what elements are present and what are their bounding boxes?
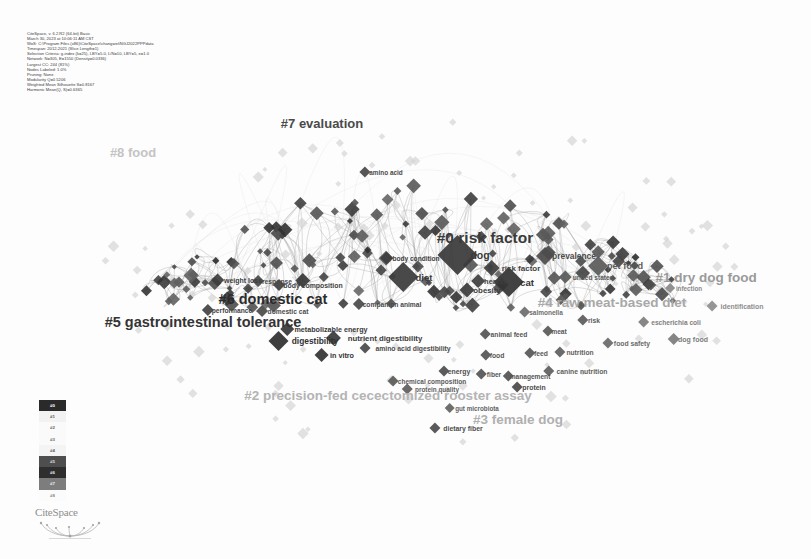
graph-node[interactable] bbox=[308, 143, 318, 153]
graph-node[interactable] bbox=[650, 259, 663, 272]
graph-node[interactable] bbox=[577, 315, 588, 326]
graph-node[interactable] bbox=[337, 260, 348, 271]
graph-node[interactable] bbox=[554, 347, 565, 358]
graph-node[interactable] bbox=[497, 211, 510, 224]
graph-node[interactable] bbox=[511, 434, 519, 442]
graph-node[interactable] bbox=[545, 391, 557, 403]
graph-node[interactable] bbox=[193, 346, 205, 358]
graph-node[interactable] bbox=[335, 252, 345, 262]
graph-node[interactable] bbox=[665, 283, 675, 293]
graph-node[interactable] bbox=[300, 346, 307, 353]
graph-node[interactable] bbox=[641, 222, 650, 231]
graph-node[interactable] bbox=[253, 171, 264, 182]
graph-node[interactable] bbox=[638, 317, 649, 328]
graph-node[interactable] bbox=[176, 375, 184, 383]
graph-node[interactable] bbox=[386, 299, 396, 309]
graph-node[interactable] bbox=[628, 203, 638, 213]
graph-node[interactable] bbox=[540, 286, 552, 298]
graph-node[interactable] bbox=[402, 384, 413, 395]
graph-node[interactable] bbox=[702, 220, 713, 231]
graph-node[interactable] bbox=[375, 339, 381, 345]
graph-node[interactable] bbox=[315, 348, 329, 362]
graph-node[interactable] bbox=[476, 369, 487, 380]
graph-node[interactable] bbox=[543, 366, 554, 377]
graph-node[interactable] bbox=[480, 350, 491, 361]
graph-node[interactable] bbox=[336, 139, 344, 147]
graph-node[interactable] bbox=[460, 283, 475, 298]
legend-item-c7[interactable]: #7 bbox=[39, 478, 66, 489]
graph-node[interactable] bbox=[524, 348, 535, 359]
graph-node[interactable] bbox=[438, 366, 449, 377]
graph-node[interactable] bbox=[270, 256, 283, 269]
graph-node[interactable] bbox=[666, 177, 676, 187]
graph-node[interactable] bbox=[451, 357, 457, 363]
graph-node[interactable] bbox=[562, 339, 570, 347]
legend-item-c1[interactable]: #1 bbox=[39, 411, 66, 422]
graph-node[interactable] bbox=[133, 266, 142, 275]
graph-node[interactable] bbox=[162, 356, 172, 366]
graph-node[interactable] bbox=[380, 252, 393, 265]
graph-node[interactable] bbox=[455, 340, 464, 349]
graph-node[interactable] bbox=[460, 300, 467, 307]
graph-node[interactable] bbox=[567, 136, 577, 146]
graph-node[interactable] bbox=[581, 138, 587, 144]
graph-node[interactable] bbox=[370, 208, 383, 221]
graph-node[interactable] bbox=[132, 291, 139, 298]
graph-node[interactable] bbox=[272, 390, 279, 397]
graph-node[interactable] bbox=[162, 320, 173, 331]
graph-node[interactable] bbox=[712, 261, 722, 271]
graph-node[interactable] bbox=[262, 167, 267, 172]
graph-node[interactable] bbox=[689, 228, 696, 235]
graph-node[interactable] bbox=[642, 177, 650, 185]
graph-node[interactable] bbox=[360, 336, 367, 343]
graph-node[interactable] bbox=[503, 371, 514, 382]
legend-item-c4[interactable]: #4 bbox=[39, 445, 66, 456]
graph-node[interactable] bbox=[310, 206, 324, 220]
graph-node[interactable] bbox=[580, 221, 591, 232]
graph-node[interactable] bbox=[392, 342, 400, 350]
graph-node[interactable] bbox=[444, 386, 451, 393]
graph-node[interactable] bbox=[471, 274, 485, 288]
graph-node[interactable] bbox=[464, 192, 478, 206]
graph-node[interactable] bbox=[353, 285, 364, 296]
graph-node[interactable] bbox=[273, 381, 283, 391]
graph-node[interactable] bbox=[712, 336, 721, 345]
legend-item-c0[interactable]: #0 bbox=[39, 400, 66, 411]
graph-node[interactable] bbox=[507, 222, 521, 236]
graph-node[interactable] bbox=[458, 381, 468, 391]
graph-node[interactable] bbox=[543, 211, 551, 219]
graph-node[interactable] bbox=[326, 331, 341, 346]
graph-node[interactable] bbox=[542, 326, 553, 337]
graph-node[interactable] bbox=[562, 420, 572, 430]
graph-node[interactable] bbox=[661, 211, 667, 217]
graph-node[interactable] bbox=[379, 133, 386, 140]
graph-node[interactable] bbox=[403, 393, 414, 404]
graph-node[interactable] bbox=[580, 371, 585, 376]
graph-node[interactable] bbox=[341, 150, 348, 157]
graph-node[interactable] bbox=[697, 330, 707, 340]
graph-node[interactable] bbox=[102, 257, 110, 265]
graph-node[interactable] bbox=[316, 251, 322, 257]
graph-node[interactable] bbox=[429, 423, 440, 434]
graph-node[interactable] bbox=[635, 334, 643, 342]
graph-node[interactable] bbox=[684, 374, 694, 384]
graph-node[interactable] bbox=[353, 298, 365, 310]
graph-node[interactable] bbox=[135, 326, 143, 334]
graph-node[interactable] bbox=[331, 207, 339, 215]
graph-node[interactable] bbox=[319, 272, 329, 282]
graph-node[interactable] bbox=[281, 250, 290, 259]
legend-item-c8[interactable]: #8 bbox=[39, 490, 66, 501]
graph-node[interactable] bbox=[265, 323, 273, 331]
legend-item-c6[interactable]: #6 bbox=[39, 467, 66, 478]
graph-node[interactable] bbox=[442, 207, 449, 214]
graph-node[interactable] bbox=[142, 246, 147, 251]
legend-item-c2[interactable]: #2 bbox=[39, 422, 66, 433]
graph-node[interactable] bbox=[425, 383, 431, 389]
citespace-canvas[interactable]: CiteSpace, v. 6.2.R2 (64-bit) BasicMarch… bbox=[0, 0, 811, 559]
graph-node[interactable] bbox=[369, 162, 376, 169]
graph-node[interactable] bbox=[706, 278, 715, 287]
graph-node[interactable] bbox=[449, 119, 456, 126]
graph-node[interactable] bbox=[669, 297, 676, 304]
graph-node[interactable] bbox=[278, 148, 288, 158]
graph-node[interactable] bbox=[480, 329, 491, 340]
